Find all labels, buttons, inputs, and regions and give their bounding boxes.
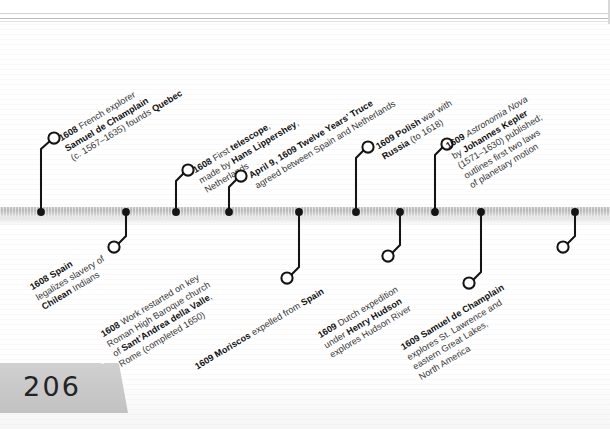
event-connector: [102, 200, 138, 259]
axis-marker-dot: [352, 208, 360, 216]
event-connector: [275, 200, 311, 290]
page-rule-bottom: [0, 21, 610, 22]
page-number: 206: [23, 371, 81, 402]
event-label: 1609 Dutch expeditionunder Henry Hudsone…: [316, 284, 414, 362]
event-connector: [457, 200, 493, 295]
axis-marker-dot: [172, 208, 180, 216]
event-connector: [376, 200, 412, 268]
event-connector: [344, 135, 380, 224]
event-node-circle: [235, 170, 246, 181]
event-label: 1609 Astronomia Novaby Johannes Kepler(1…: [444, 92, 557, 191]
event-node-circle: [281, 272, 292, 283]
axis-marker-dot: [295, 208, 303, 216]
page-number-tab: 206: [0, 363, 112, 413]
axis-marker-dot: [122, 208, 130, 216]
axis-marker-dot: [225, 208, 233, 216]
page-rule-top: [0, 13, 610, 14]
page-rule-middle: [0, 18, 610, 19]
axis-marker-dot: [571, 208, 579, 216]
event-connector: [551, 200, 587, 259]
event-label: 1608 Spainlegalizes slavery ofChilean In…: [28, 243, 113, 313]
event-node-circle: [557, 241, 568, 252]
event-node-circle: [108, 241, 119, 252]
event-label: 1609 Samuel de Champlainexplores St. Law…: [399, 282, 524, 383]
axis-marker-dot: [431, 208, 439, 216]
scanned-page: 1608 French explorerSamuel de Champlain(…: [0, 0, 610, 429]
event-label-line: Samuel de Champlain: [63, 78, 179, 154]
axis-marker-dot: [396, 208, 404, 216]
page-number-tab-bevel: [104, 363, 128, 413]
event-node-circle: [463, 277, 474, 288]
event-node-circle: [382, 250, 393, 261]
axis-marker-dot: [477, 208, 485, 216]
event-label: 1608 French explorerSamuel de Champlain(…: [57, 68, 185, 164]
axis-marker-dot: [37, 208, 45, 216]
event-node-circle: [362, 141, 373, 152]
